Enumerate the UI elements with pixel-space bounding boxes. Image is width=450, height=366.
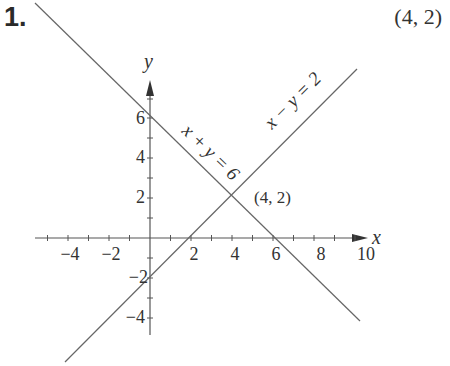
svg-text:4: 4 bbox=[136, 147, 145, 167]
svg-text:4: 4 bbox=[231, 244, 240, 264]
y-axis-label: y bbox=[142, 50, 153, 73]
svg-text:−4: −4 bbox=[60, 244, 79, 264]
svg-text:2: 2 bbox=[136, 187, 145, 207]
svg-text:6: 6 bbox=[272, 244, 281, 264]
line-x-plus-y-6 bbox=[35, 3, 360, 321]
svg-text:−2: −2 bbox=[129, 267, 148, 287]
y-tick-labels: 6 4 2 −2 −4 bbox=[126, 108, 148, 327]
svg-text:−2: −2 bbox=[101, 244, 120, 264]
svg-text:2: 2 bbox=[190, 244, 199, 264]
x-tick-labels: −4 −2 2 4 6 8 10 bbox=[60, 244, 375, 264]
svg-text:8: 8 bbox=[317, 244, 326, 264]
x-axis-label: x bbox=[371, 226, 381, 248]
graph: −4 −2 2 4 6 8 10 6 4 2 −2 −4 x y x + y =… bbox=[0, 0, 450, 366]
svg-text:−4: −4 bbox=[126, 307, 145, 327]
intersection-label: (4, 2) bbox=[254, 188, 291, 207]
svg-text:6: 6 bbox=[136, 108, 145, 128]
line-x-minus-y-2 bbox=[65, 69, 357, 362]
label-x-minus-y-2: x − y = 2 bbox=[259, 67, 325, 133]
x-axis-arrow-icon bbox=[352, 234, 368, 242]
y-axis-arrow-icon bbox=[146, 80, 154, 96]
